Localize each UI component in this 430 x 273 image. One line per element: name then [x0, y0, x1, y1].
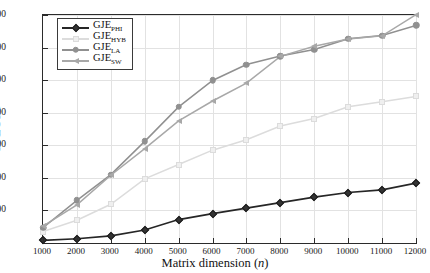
x-axis-tick [179, 238, 180, 243]
legend-marker-circle-icon [62, 44, 89, 55]
x-axis-tick [43, 238, 44, 243]
x-axis-title-prefix: Matrix dimension ( [162, 256, 259, 270]
x-axis-tick [382, 238, 383, 243]
y-axis-tick [43, 80, 48, 81]
y-axis-tick-label: 700 [0, 9, 6, 19]
x-axis-tick [280, 238, 281, 243]
x-axis-tick [416, 238, 417, 243]
y-axis-tick-label: 500 [0, 74, 6, 84]
x-axis-tick [77, 238, 78, 243]
y-axis-tick [43, 145, 48, 146]
legend-label: GJESW [93, 52, 122, 68]
y-axis-tick-label: 200 [0, 172, 6, 182]
gflops-line-chart: GFLOPS Matrix dimension (n) 100020003000… [0, 0, 430, 273]
legend-item-gje-sw[interactable]: GJESW [62, 55, 126, 66]
y-axis-tick [43, 48, 48, 49]
y-axis-tick [43, 15, 48, 16]
x-axis-tick [145, 238, 146, 243]
x-axis-title-suffix: ) [264, 256, 268, 270]
legend-marker-triangle-icon [62, 55, 89, 66]
y-axis-tick-label: 300 [0, 139, 6, 149]
y-axis-tick-label: 600 [0, 42, 6, 52]
y-axis-tick [43, 113, 48, 114]
x-axis-tick [111, 238, 112, 243]
x-axis-tick [246, 238, 247, 243]
x-axis-tick [314, 238, 315, 243]
y-axis-tick-label: 400 [0, 107, 6, 117]
x-axis-tick [348, 238, 349, 243]
legend-marker-square-icon [62, 33, 89, 44]
x-axis-title: Matrix dimension (n) [0, 256, 430, 271]
legend-marker-diamond-icon [62, 22, 89, 33]
x-axis-tick-label: 12000 [385, 246, 430, 256]
gridline-vertical [416, 15, 417, 243]
y-axis-tick-label: 100 [0, 204, 6, 214]
y-axis-tick [43, 178, 48, 179]
chart-legend: GJEPHIGJEHYBGJELAGJESW [57, 18, 133, 70]
x-axis-tick [213, 238, 214, 243]
y-axis-tick [43, 210, 48, 211]
